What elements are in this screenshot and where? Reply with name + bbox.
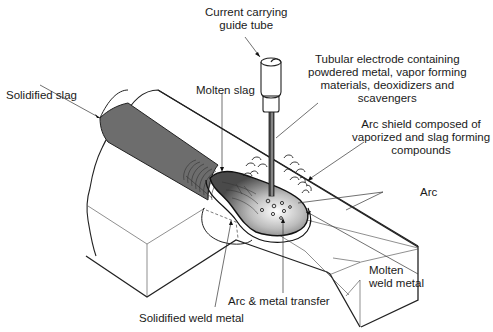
label-solidified-weld-metal: Solidified weld metal [139, 312, 244, 325]
label-arc-shield-line3: compounds [352, 144, 490, 157]
label-molten-weld-metal-line1: Molten [369, 264, 424, 277]
guide-tube [261, 58, 281, 112]
label-guide-tube: Current carrying guide tube [205, 6, 287, 32]
label-arc-shield: Arc shield composed of vaporized and sla… [352, 118, 490, 157]
label-electrode-line2: powdered metal, vapor forming [308, 66, 467, 79]
label-electrode-line1: Tubular electrode containing [308, 53, 467, 66]
molten-weld-pool [206, 172, 311, 243]
label-arc: Arc [420, 186, 437, 199]
label-tubular-electrode: Tubular electrode containing powdered me… [308, 53, 467, 105]
label-guide-tube-line1: Current carrying [205, 6, 287, 19]
label-solidified-slag: Solidified slag [6, 89, 77, 102]
label-guide-tube-line2: guide tube [205, 19, 287, 32]
label-electrode-line3: materials, deoxidizers and [308, 79, 467, 92]
label-arc-metal-transfer: Arc & metal transfer [228, 295, 330, 308]
label-arc-shield-line1: Arc shield composed of [352, 118, 490, 131]
label-molten-weld-metal: Molten weld metal [369, 264, 424, 290]
label-molten-weld-metal-line2: weld metal [369, 277, 424, 290]
label-electrode-line4: scavengers [308, 92, 467, 105]
electrode-wire [269, 110, 274, 196]
label-molten-slag: Molten slag [196, 84, 255, 97]
label-arc-shield-line2: vaporized and slag forming [352, 131, 490, 144]
welding-diagram: Current carrying guide tube Tubular elec… [0, 0, 493, 332]
